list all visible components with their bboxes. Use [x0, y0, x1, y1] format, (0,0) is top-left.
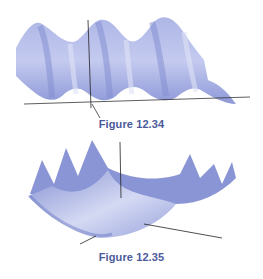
wave-surface-plot	[0, 0, 263, 120]
y-axis	[92, 104, 100, 118]
trough-surface-plot	[0, 134, 263, 252]
y-axis	[80, 236, 96, 244]
figure-12-35	[0, 134, 263, 252]
figure-12-34	[0, 0, 263, 120]
figure-caption: Figure 12.35	[0, 251, 263, 263]
figure-caption: Figure 12.34	[0, 118, 263, 130]
x-axis	[144, 224, 222, 238]
